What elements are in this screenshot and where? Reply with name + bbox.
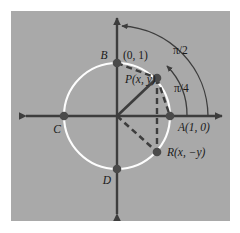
- label-arc-quarter-pi: π/4: [174, 82, 189, 94]
- label-point-a: A(1, 0): [177, 121, 210, 134]
- label-point-p: P(x, y): [124, 73, 156, 86]
- label-point-b: B: [100, 49, 107, 61]
- point-r: [153, 148, 162, 157]
- point-c: [60, 112, 69, 121]
- unit-circle-diagram: A(1, 0) B (0, 1) C D P(x, y) R(x, −y) π/…: [0, 0, 240, 233]
- point-a: [166, 112, 175, 121]
- label-arc-half-pi: π/2: [173, 44, 188, 56]
- point-d: [113, 165, 122, 174]
- point-b: [113, 59, 122, 68]
- figure-container: A(1, 0) B (0, 1) C D P(x, y) R(x, −y) π/…: [0, 0, 240, 233]
- label-point-r: R(x, −y): [166, 146, 206, 159]
- label-point-b-coords: (0, 1): [123, 49, 148, 62]
- label-point-c: C: [53, 123, 61, 135]
- label-point-d: D: [102, 174, 112, 186]
